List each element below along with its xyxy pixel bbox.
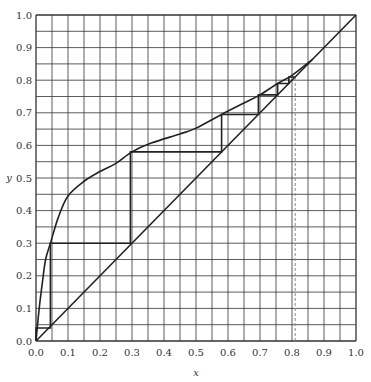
y-tick-label: 0.7: [16, 107, 32, 118]
x-tick-label: 0.1: [60, 347, 76, 358]
chart: 0.00.10.20.30.40.50.60.70.80.91.00.00.10…: [0, 0, 371, 382]
y-tick-label: 0.5: [16, 173, 32, 184]
y-axis-label: y: [5, 172, 12, 183]
y-tick-label: 0.1: [16, 303, 32, 314]
y-tick-label: 0.4: [16, 205, 32, 216]
y-tick-label: 0.9: [16, 42, 32, 53]
x-tick-label: 0.4: [156, 347, 172, 358]
x-tick-label: 0.3: [124, 347, 140, 358]
x-tick-label: 0.8: [284, 347, 300, 358]
y-tick-label: 0.3: [16, 238, 32, 249]
x-tick-label: 0.2: [92, 347, 108, 358]
x-tick-label: 1.0: [348, 347, 364, 358]
x-tick-label: 0.6: [220, 347, 236, 358]
y-tick-label: 0.6: [16, 140, 32, 151]
y-tick-label: 0.8: [16, 75, 32, 86]
x-tick-label: 0.0: [28, 347, 44, 358]
y-tick-label: 0.2: [16, 270, 32, 281]
x-tick-label: 0.7: [252, 347, 268, 358]
y-tick-label: 1.0: [16, 10, 32, 21]
x-tick-label: 0.5: [188, 347, 204, 358]
x-tick-label: 0.9: [316, 347, 332, 358]
y-tick-label: 0.0: [16, 336, 32, 347]
x-axis-label: x: [193, 367, 199, 378]
